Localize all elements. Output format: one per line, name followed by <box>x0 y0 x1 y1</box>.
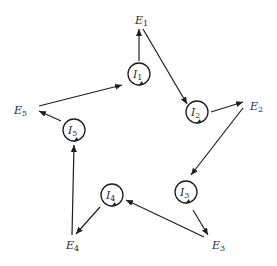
edge-i5-e5 <box>39 111 61 121</box>
edge-i2-e2 <box>211 102 243 112</box>
edge-i3-e3 <box>193 210 208 235</box>
edge-e5-i1 <box>39 85 122 106</box>
edge-i4-e4 <box>76 207 100 234</box>
edge-e1-i2 <box>143 29 187 104</box>
edge-e4-i5 <box>72 145 74 235</box>
node-e5: E5 <box>13 104 27 118</box>
edge-e3-i4 <box>126 200 204 237</box>
node-i4: I4 <box>101 184 123 207</box>
node-e3: E3 <box>211 239 225 253</box>
star-cycle-diagram: I1 I2 I3 I4 I5 E1 E2 E3 E4 E5 <box>0 0 277 266</box>
node-i3: I3 <box>175 181 197 204</box>
node-i5: I5 <box>63 119 85 142</box>
node-i2: I2 <box>186 101 208 124</box>
node-e2: E2 <box>249 100 263 114</box>
node-i1: I1 <box>128 63 150 86</box>
node-e1: E1 <box>134 14 148 28</box>
node-e4: E4 <box>65 239 79 253</box>
